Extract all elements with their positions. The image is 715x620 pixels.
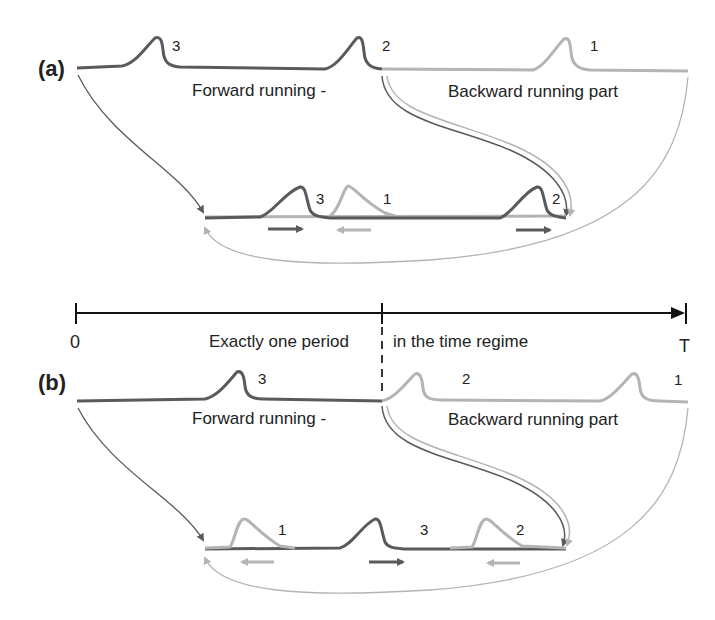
time-axis: 0 T Exactly one period in the time regim…: [70, 303, 690, 395]
pulse-label: 3: [258, 370, 266, 387]
axis-left-text: Exactly one period: [209, 332, 349, 351]
forward-mapping-arrow: [78, 408, 203, 540]
pulse-label: 1: [590, 37, 598, 54]
panel-a-backward-signal: [382, 39, 688, 71]
pulse-label: 1: [674, 371, 682, 388]
pulse-label: 3: [316, 190, 324, 207]
forward-mapping-arrow: [78, 75, 203, 212]
panel-b: (b) 3 2 1 Forward running - Backward run…: [38, 370, 688, 593]
backward-wrap-arrow: [205, 408, 688, 593]
pulse-label: 3: [420, 521, 428, 538]
backward-wrap-arrow: [205, 77, 688, 263]
pulse-label: 2: [552, 190, 560, 207]
pulse-label: 2: [516, 521, 524, 538]
axis-end-label: T: [679, 336, 690, 356]
panel-b-backward-signal: [382, 374, 688, 402]
panel-b-rearranged-forward: [205, 519, 566, 549]
panel-a-forward-signal: [77, 38, 382, 70]
forward-running-text: Forward running -: [192, 81, 326, 100]
backward-running-text: Backward running part: [448, 410, 618, 429]
pulse-label: 3: [172, 37, 180, 54]
panel-b-label: (b): [38, 370, 66, 395]
pulse-label: 2: [382, 37, 390, 54]
panel-b-forward-signal: [77, 372, 382, 401]
panel-a: (a) 3 2 1 Forward running - Backward run…: [38, 37, 688, 263]
pulse-label: 2: [462, 370, 470, 387]
forward-running-text: Forward running -: [192, 409, 326, 428]
pulse-label: 1: [278, 521, 286, 538]
pulse-label: 1: [383, 190, 391, 207]
axis-right-text: in the time regime: [393, 332, 528, 351]
axis-start-label: 0: [70, 332, 80, 352]
panel-a-label: (a): [38, 56, 65, 81]
backward-running-text: Backward running part: [448, 82, 618, 101]
diagram-canvas: (a) 3 2 1 Forward running - Backward run…: [0, 0, 715, 620]
